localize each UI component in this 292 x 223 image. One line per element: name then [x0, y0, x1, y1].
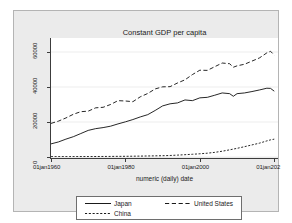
- series-lines: [51, 51, 274, 156]
- legend-swatch-dotted-icon: [85, 211, 111, 216]
- plot-svg: [51, 38, 278, 157]
- legend-item-japan[interactable]: Japan: [85, 200, 132, 207]
- legend-item-united-states[interactable]: United States: [165, 200, 233, 207]
- x-tick-mark: [51, 159, 52, 162]
- series-line-japan: [51, 88, 274, 144]
- legend-swatch-solid-icon: [85, 201, 111, 206]
- x-axis-label: numeric (daily) date: [51, 175, 278, 182]
- y-tick-label: 40000: [32, 78, 38, 94]
- y-axis-line: [50, 38, 51, 158]
- graph-canvas: Constant GDP per capita 0200004000060000…: [13, 10, 279, 212]
- legend-label-united-states: United States: [194, 200, 233, 207]
- x-tick-mark: [274, 159, 275, 162]
- y-tick-label: 20000: [32, 113, 38, 129]
- x-tick-label: 01jan1960: [33, 164, 60, 170]
- x-tick-mark: [125, 159, 126, 162]
- series-line-china: [51, 139, 274, 157]
- legend-swatch-dashed-icon: [165, 201, 191, 206]
- x-tick-label: 01jan2000: [182, 164, 209, 170]
- stata-graph-window: Constant GDP per capita 0200004000060000…: [0, 0, 292, 223]
- y-tick-mark: [47, 122, 50, 123]
- y-tick-label: 60000: [32, 43, 38, 59]
- plot-area: [51, 38, 278, 157]
- legend-item-china[interactable]: China: [85, 210, 131, 217]
- y-tick-mark: [47, 52, 50, 53]
- legend-label-china: China: [114, 210, 131, 217]
- page-title: Constant GDP per capita: [51, 28, 278, 37]
- x-tick-label: 01jan1980: [107, 164, 134, 170]
- x-axis-line: [50, 158, 278, 159]
- legend-label-japan: Japan: [114, 200, 132, 207]
- x-tick-label: 01jan202: [256, 164, 280, 170]
- x-tick-mark: [200, 159, 201, 162]
- legend: Japan United States China: [76, 196, 242, 220]
- gridlines: [51, 52, 278, 157]
- y-tick-mark: [47, 87, 50, 88]
